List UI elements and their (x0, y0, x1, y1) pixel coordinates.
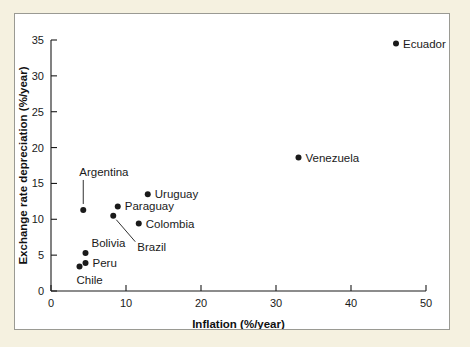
data-point-brazil (110, 213, 116, 219)
x-tick-label: 0 (48, 297, 54, 309)
y-tick-label: 15 (32, 177, 44, 189)
point-label-brazil: Brazil (137, 241, 166, 253)
x-tick-label: 20 (195, 297, 207, 309)
data-point-venezuela (296, 155, 302, 161)
y-tick-label: 30 (32, 70, 44, 82)
point-label-colombia: Colombia (146, 218, 195, 230)
point-label-bolivia: Bolivia (92, 237, 126, 249)
point-labels-group: EcuadorVenezuelaUruguayParaguayColombiaA… (77, 38, 447, 286)
x-tick-label: 30 (270, 297, 282, 309)
data-point-colombia (136, 221, 142, 227)
point-label-ecuador: Ecuador (403, 38, 446, 50)
point-label-uruguay: Uruguay (155, 188, 199, 200)
figure-root: 0102030405005101520253035 EcuadorVenezue… (0, 0, 470, 347)
point-label-chile: Chile (77, 274, 103, 286)
data-point-peru (83, 260, 89, 266)
y-tick-label: 0 (38, 285, 44, 297)
x-tick-label: 40 (345, 297, 357, 309)
point-label-peru: Peru (93, 257, 117, 269)
data-point-paraguay (115, 203, 121, 209)
y-tick-label: 25 (32, 106, 44, 118)
chart-panel: 0102030405005101520253035 EcuadorVenezue… (14, 13, 450, 330)
y-tick-label: 10 (32, 213, 44, 225)
point-label-argentina: Argentina (79, 166, 129, 178)
x-axis-title: Inflation (%/year) (192, 318, 285, 329)
x-tick-label: 10 (120, 297, 132, 309)
data-point-argentina (80, 207, 86, 213)
y-tick-label: 20 (32, 142, 44, 154)
data-point-chile (77, 264, 83, 270)
y-axis-title: Exchange rate depreciation (%/year) (17, 66, 29, 264)
y-tick-label: 35 (32, 34, 44, 46)
data-point-uruguay (145, 191, 151, 197)
point-label-venezuela: Venezuela (306, 152, 360, 164)
x-tick-label: 50 (420, 297, 432, 309)
data-point-bolivia (83, 250, 89, 256)
point-label-paraguay: Paraguay (125, 200, 174, 212)
scatter-plot: 0102030405005101520253035 EcuadorVenezue… (15, 14, 449, 329)
data-point-ecuador (393, 41, 399, 47)
y-tick-label: 5 (38, 249, 44, 261)
